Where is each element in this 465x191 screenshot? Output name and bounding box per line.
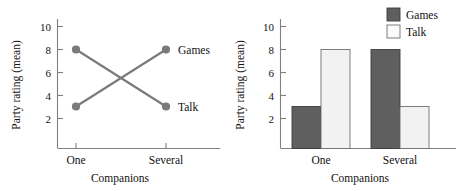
line-chart-y-tick-10: 10 <box>40 21 52 33</box>
bar-talk-one <box>321 50 350 149</box>
bar-chart-panel: Party rating (mean) 10 8 6 4 2 One <box>232 0 465 191</box>
line-marker-talk-one <box>72 45 80 53</box>
line-chart-label-talk: Talk <box>178 101 199 113</box>
line-chart-y-tick-2: 2 <box>46 113 52 125</box>
line-chart-x-axis-title: Companions <box>91 172 150 185</box>
bar-chart-y-tick-4: 4 <box>269 90 275 102</box>
line-marker-games-one <box>72 102 80 110</box>
bar-chart-svg: Party rating (mean) 10 8 6 4 2 One <box>232 0 465 191</box>
bar-chart-x-label-one: One <box>311 154 330 166</box>
line-chart-x-label-several: Several <box>149 154 183 166</box>
bar-chart-legend: Games Talk <box>387 8 438 38</box>
bar-games-several <box>371 50 400 149</box>
line-marker-talk-several <box>162 102 170 110</box>
bar-chart-y-tick-10: 10 <box>263 21 275 33</box>
bar-chart-x-label-several: Several <box>383 154 417 166</box>
bar-chart-y-tick-8: 8 <box>269 44 275 56</box>
legend-label-games: Games <box>406 9 438 21</box>
line-chart-panel: Party rating (mean) 10 8 6 4 2 <box>0 0 232 191</box>
bar-games-one <box>292 107 321 149</box>
interaction-figure: Party rating (mean) 10 8 6 4 2 <box>0 0 465 191</box>
line-chart-svg: Party rating (mean) 10 8 6 4 2 <box>0 0 232 191</box>
bar-chart-x-axis-title: Companions <box>331 172 390 185</box>
bar-chart-y-tick-2: 2 <box>269 113 275 125</box>
line-chart-y-tick-4: 4 <box>46 90 52 102</box>
line-marker-games-several <box>162 45 170 53</box>
bar-chart-y-axis-title: Party rating (mean) <box>234 40 247 130</box>
line-chart-y-tick-8: 8 <box>46 44 52 56</box>
bar-talk-several <box>400 107 429 149</box>
legend-label-talk: Talk <box>406 26 427 38</box>
line-chart-y-tick-6: 6 <box>46 67 52 79</box>
legend-swatch-games <box>387 8 400 21</box>
legend-swatch-talk <box>387 25 400 38</box>
line-chart-y-axis-title: Party rating (mean) <box>10 40 23 130</box>
line-chart-label-games: Games <box>178 44 210 56</box>
bar-chart-y-tick-6: 6 <box>269 67 275 79</box>
line-chart-x-label-one: One <box>66 154 85 166</box>
